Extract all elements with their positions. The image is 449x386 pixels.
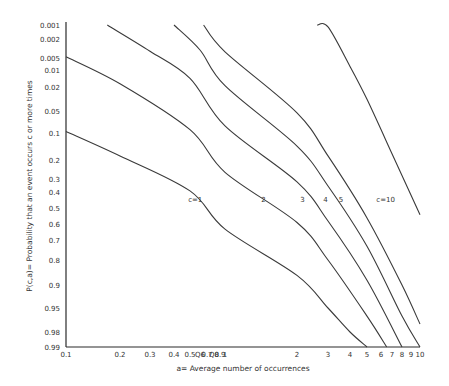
curve-c-10: [317, 23, 420, 214]
y-tick-label: 0.01: [44, 67, 60, 75]
y-tick-label: 0.02: [44, 84, 60, 92]
y-tick-label: 0.5: [49, 205, 60, 213]
y-tick-label: 0.95: [44, 305, 60, 313]
x-axis-title: a= Average number of occurrences: [176, 364, 309, 373]
x-tick-label: 0.1: [60, 351, 71, 359]
y-tick-label: 0.005: [40, 55, 60, 63]
x-tick-label: 0.5: [184, 351, 195, 359]
y-tick-label: 0.002: [40, 36, 60, 44]
curve-label: 3: [300, 196, 304, 204]
x-tick-label: 6: [379, 351, 384, 359]
x-tick-label: 0.4: [168, 351, 180, 359]
y-tick-label: 0.99: [44, 344, 60, 352]
axes: [66, 22, 420, 347]
y-tick-label: 0.05: [44, 108, 60, 116]
curve-label: c=10: [376, 196, 395, 204]
x-axis-ticks: 0.10.20.30.40.5Q60.7Q80.912345678910: [60, 351, 424, 359]
x-tick-label: 4: [348, 351, 353, 359]
y-axis-title: P(c,a)= Probability that an event occurs…: [25, 80, 34, 292]
y-tick-label: 0.6: [49, 221, 61, 229]
y-tick-label: 0.001: [40, 22, 60, 30]
x-tick-label: 10: [416, 351, 425, 359]
x-tick-label: 2: [295, 351, 299, 359]
x-tick-label: 3: [326, 351, 330, 359]
y-tick-label: 0.1: [49, 130, 60, 138]
curve-label: c=1: [188, 196, 202, 204]
x-tick-label: 0.3: [144, 351, 155, 359]
y-tick-label: 0.7: [49, 237, 60, 245]
probability-chart: 0.0010.0020.0050.010.020.050.10.20.30.40…: [0, 0, 449, 386]
y-tick-label: 0.2: [49, 157, 60, 165]
y-axis-ticks: 0.0010.0020.0050.010.020.050.10.20.30.40…: [40, 22, 61, 352]
x-tick-label: 8: [400, 351, 404, 359]
curve-label: 4: [323, 196, 328, 204]
curves: [66, 23, 420, 347]
curve-c-3: [107, 25, 402, 347]
x-tick-label: 9: [409, 351, 413, 359]
y-tick-label: 0.9: [49, 282, 60, 290]
curve-label: 5: [339, 196, 343, 204]
y-tick-label: 0.3: [49, 176, 60, 184]
x-tick-label: 5: [365, 351, 369, 359]
x-tick-label: 0.2: [114, 351, 125, 359]
y-tick-label: 0.8: [49, 257, 60, 265]
x-tick-label: 1: [223, 351, 227, 359]
y-tick-label: 0.98: [44, 329, 60, 337]
y-tick-label: 0.4: [49, 189, 61, 197]
x-tick-label: 7: [390, 351, 394, 359]
curve-labels: c=12345c=10: [188, 196, 395, 204]
curve-c-5: [204, 25, 420, 324]
curve-label: 2: [261, 196, 265, 204]
curve-c-4: [174, 25, 420, 347]
